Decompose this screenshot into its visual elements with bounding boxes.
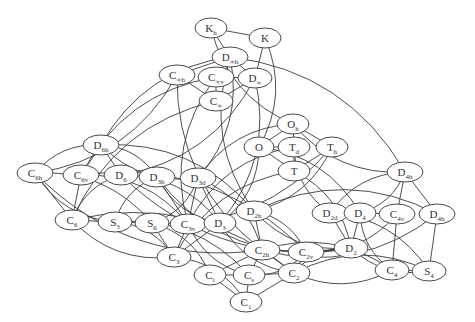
node-Cs: Cs xyxy=(233,265,265,285)
node-D4h_right: D4h xyxy=(419,204,455,224)
node-D4h_top: D4h xyxy=(387,162,423,182)
node-C6: C6 xyxy=(55,210,89,230)
node-S3: S3 xyxy=(98,212,132,232)
node-layer: KhKD∞hC∞hC∞vD∞C∞OhOTdThTD6hC6hC6vD6D3hD3… xyxy=(17,18,455,312)
node-C2h: C2h xyxy=(244,240,280,260)
node-Cinfh: C∞h xyxy=(159,65,195,85)
node-C3: C3 xyxy=(157,247,191,267)
node-Kh: Kh xyxy=(195,18,227,38)
node-D3d: D3d xyxy=(180,168,216,188)
node-Cinfv: C∞v xyxy=(198,67,234,87)
node-Oh: Oh xyxy=(277,114,309,134)
node-K: K xyxy=(249,28,281,48)
node-C6v: C6v xyxy=(63,165,99,185)
edge-K-O xyxy=(259,38,276,147)
node-D6: D6 xyxy=(104,165,138,185)
node-C1: C1 xyxy=(230,292,262,312)
edge-Cinfv-C6v xyxy=(81,77,216,175)
node-Th: Th xyxy=(316,137,348,157)
node-O: O xyxy=(244,137,274,157)
node-C2v: C2v xyxy=(288,242,324,262)
node-Cinf: C∞ xyxy=(199,91,233,111)
node-Ci: Ci xyxy=(194,265,226,285)
node-Dinf: D∞ xyxy=(238,68,272,88)
node-C2: C2 xyxy=(278,263,310,283)
node-Dinfh: D∞h xyxy=(212,47,248,67)
node-D3: D3 xyxy=(204,213,236,233)
node-D2: D2 xyxy=(334,238,368,258)
node-Td: Td xyxy=(278,137,310,157)
node-D2d: D2d xyxy=(312,203,348,223)
point-group-graph: KhKD∞hC∞hC∞vD∞C∞OhOTdThTD6hC6hC6vD6D3hD3… xyxy=(0,0,475,322)
edge-Dinf-D6 xyxy=(121,78,255,175)
edge-C4-C2h xyxy=(262,242,392,270)
edge-layer xyxy=(35,28,437,302)
node-C6h: C6h xyxy=(17,163,53,183)
node-label: O xyxy=(255,141,263,153)
node-label: T xyxy=(291,165,298,177)
node-D4: D4 xyxy=(344,203,376,223)
node-S6: S6 xyxy=(135,213,169,233)
node-C4v: C4v xyxy=(379,204,415,224)
node-D6h: D6h xyxy=(83,135,119,155)
node-label: K xyxy=(261,32,269,44)
node-T: T xyxy=(278,161,310,181)
node-C4: C4 xyxy=(375,260,409,280)
node-S4: S4 xyxy=(412,261,446,281)
node-C3v: C3v xyxy=(170,214,206,234)
edge-Cinf-C6 xyxy=(72,101,216,220)
node-D3h: D3h xyxy=(139,167,175,187)
node-D2h: D2h xyxy=(236,201,272,221)
